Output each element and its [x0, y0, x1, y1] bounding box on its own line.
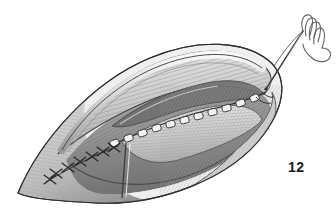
straight-surgical-needle — [264, 31, 303, 91]
figure-illustration: 12 — [0, 0, 336, 224]
suture-thread-loop — [274, 15, 331, 66]
figure-number-label: 12 — [288, 160, 304, 174]
surgical-illustration-svg — [0, 0, 336, 224]
